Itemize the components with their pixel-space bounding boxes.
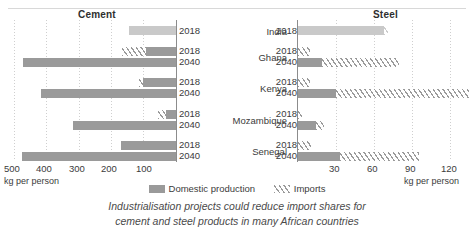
year-label-cement-kenya-2040: 2040 bbox=[179, 88, 200, 97]
bar-row-steel-ghana-2040 bbox=[298, 58, 399, 67]
bar-segment-domestic bbox=[73, 121, 176, 130]
cement-value-axis bbox=[176, 20, 177, 162]
bar-segment-domestic bbox=[22, 152, 176, 161]
bar-row-steel-kenya-2018 bbox=[298, 78, 310, 87]
bar-segment-domestic bbox=[129, 26, 176, 35]
steel-panel-title: Steel bbox=[373, 9, 398, 20]
legend-swatch-imports-icon bbox=[274, 185, 290, 193]
bar-row-steel-mozambique-2018 bbox=[298, 110, 302, 119]
bar-segment-domestic bbox=[146, 47, 176, 56]
year-label-cement-ghana-2018: 2018 bbox=[179, 46, 200, 55]
bar-row-cement-kenya-2018 bbox=[139, 78, 176, 87]
bar-segment-domestic bbox=[41, 89, 176, 98]
bar-row-cement-india-2018 bbox=[129, 26, 176, 35]
bar-segment-domestic bbox=[298, 89, 336, 98]
caption-line-2: cement and steel products in many Africa… bbox=[0, 214, 474, 229]
legend-swatch-domestic-icon bbox=[149, 185, 165, 193]
bar-row-steel-mozambique-2040 bbox=[298, 121, 324, 130]
bar-row-steel-senegal-2018 bbox=[298, 141, 311, 150]
bar-segment-imports bbox=[384, 26, 388, 35]
cement-panel-title: Cement bbox=[78, 9, 116, 20]
bar-segment-domestic bbox=[298, 121, 316, 130]
year-label-cement-ghana-2040: 2040 bbox=[179, 57, 200, 66]
bar-segment-imports bbox=[298, 110, 302, 119]
bar-segment-domestic bbox=[298, 58, 322, 67]
bar-segment-imports bbox=[298, 78, 310, 87]
steel-tick-90: 90 bbox=[405, 163, 416, 174]
cement-tick-500: 500 bbox=[4, 163, 20, 174]
chart-legend: Domestic production Imports bbox=[0, 183, 474, 194]
cement-tick-100: 100 bbox=[136, 163, 152, 174]
bar-row-cement-ghana-2018 bbox=[122, 47, 176, 56]
bar-segment-imports bbox=[158, 110, 166, 119]
bar-segment-domestic bbox=[166, 110, 176, 119]
legend-item-domestic: Domestic production bbox=[149, 183, 256, 194]
bar-segment-imports bbox=[336, 89, 469, 98]
caption-line-1: Industrialisation projects could reduce … bbox=[0, 199, 474, 214]
bar-segment-imports bbox=[298, 141, 311, 150]
bar-segment-imports bbox=[316, 121, 324, 130]
country-label-mozambique: Mozambique bbox=[203, 115, 287, 126]
legend-label-imports: Imports bbox=[294, 183, 326, 194]
bar-row-steel-india-2018 bbox=[298, 26, 388, 35]
bar-segment-domestic bbox=[121, 141, 176, 150]
country-label-senegal: Senegal bbox=[203, 146, 287, 157]
year-label-cement-senegal-2040: 2040 bbox=[179, 151, 200, 160]
cement-tick-400: 400 bbox=[36, 163, 52, 174]
bar-segment-domestic bbox=[23, 58, 176, 67]
bar-row-steel-senegal-2040 bbox=[298, 152, 419, 161]
bar-segment-imports bbox=[122, 47, 146, 56]
bar-row-cement-mozambique-2018 bbox=[158, 110, 176, 119]
bar-row-cement-senegal-2018 bbox=[121, 141, 176, 150]
bar-row-cement-kenya-2040 bbox=[41, 89, 176, 98]
legend-item-imports: Imports bbox=[274, 183, 326, 194]
country-label-kenya: Kenya bbox=[203, 83, 287, 94]
bar-segment-imports bbox=[340, 152, 419, 161]
steel-tick-60: 60 bbox=[367, 163, 378, 174]
bar-segment-domestic bbox=[143, 78, 176, 87]
country-label-india: India bbox=[203, 26, 287, 37]
country-label-ghana: Ghana bbox=[203, 52, 287, 63]
chart-caption: Industrialisation projects could reduce … bbox=[0, 199, 474, 229]
bar-segment-domestic bbox=[298, 26, 384, 35]
cement-tick-200: 200 bbox=[101, 163, 117, 174]
year-label-cement-mozambique-2018: 2018 bbox=[179, 109, 200, 118]
year-label-cement-mozambique-2040: 2040 bbox=[179, 120, 200, 129]
chart-container: Cement Steel bbox=[0, 0, 474, 233]
bar-row-steel-ghana-2018 bbox=[298, 47, 310, 56]
year-label-cement-senegal-2018: 2018 bbox=[179, 140, 200, 149]
bar-row-cement-ghana-2040 bbox=[23, 58, 176, 67]
year-label-cement-india-2018: 2018 bbox=[179, 26, 200, 35]
bar-segment-imports bbox=[322, 58, 399, 67]
steel-tick-30: 30 bbox=[329, 163, 340, 174]
bar-row-cement-mozambique-2040 bbox=[73, 121, 176, 130]
cement-tick-300: 300 bbox=[69, 163, 85, 174]
cement-gridline-500 bbox=[14, 20, 15, 160]
legend-label-domestic: Domestic production bbox=[169, 183, 256, 194]
bar-segment-imports bbox=[298, 47, 310, 56]
bar-row-steel-kenya-2040 bbox=[298, 89, 469, 98]
year-label-cement-kenya-2018: 2018 bbox=[179, 77, 200, 86]
bar-segment-domestic bbox=[298, 152, 340, 161]
bar-row-cement-senegal-2040 bbox=[22, 152, 176, 161]
steel-tick-120: 120 bbox=[441, 163, 457, 174]
